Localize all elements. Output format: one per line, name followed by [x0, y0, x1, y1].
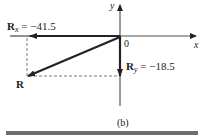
r-label: R [16, 78, 25, 90]
origin-label: 0 [124, 38, 129, 49]
y-axis-label: y [109, 0, 115, 11]
ry-label: Ry = −18.5 [126, 60, 175, 74]
r-resultant-arrow [28, 37, 120, 76]
bottom-rule [6, 131, 198, 135]
figure-caption: (b) [117, 117, 129, 129]
rx-label: Rx = −41.5 [7, 20, 56, 34]
vector-diagram: Rx = −41.5 Ry = −18.5 R 0 x y (b) [0, 0, 208, 138]
x-axis-label: x [193, 39, 199, 50]
